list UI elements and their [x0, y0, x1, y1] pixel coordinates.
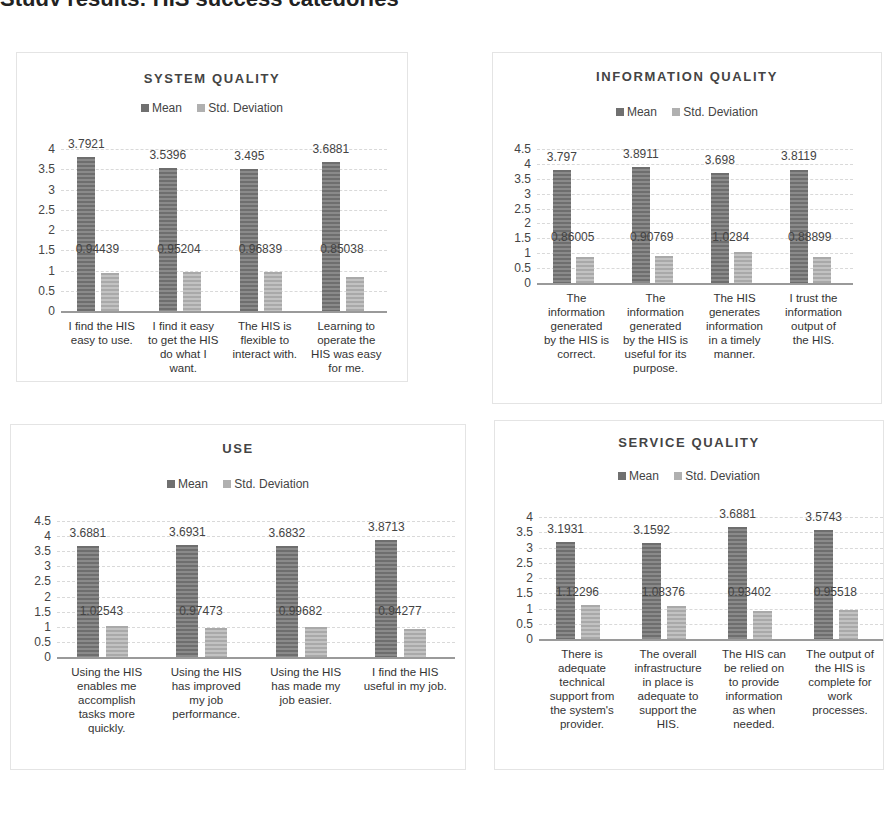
x-category-label-line: The output of: [795, 647, 885, 661]
x-category-label-line: I find the HIS: [354, 665, 458, 679]
y-tick-label: 1: [31, 264, 55, 278]
y-tick-label: 1.5: [509, 586, 533, 600]
legend-swatch-mean-icon: [141, 104, 149, 112]
gridline: [537, 164, 853, 165]
data-label-std-deviation: 0.93402: [728, 585, 771, 599]
y-tick-label: 0.5: [507, 261, 531, 275]
bar-std-deviation: [101, 273, 119, 311]
y-tick-label: 1: [507, 246, 531, 260]
x-category-label-line: job easier.: [254, 693, 358, 707]
x-category-label: I find it easyto get the HISdo what Iwan…: [141, 319, 227, 375]
legend-item-mean: Mean: [141, 101, 182, 115]
x-category-label: The HIS isflexible tointeract with.: [222, 319, 308, 361]
y-tick-label: 3.5: [27, 544, 51, 558]
x-category-label-line: The HIS: [693, 291, 776, 305]
x-category-label-line: has made my: [254, 679, 358, 693]
y-tick-label: 3.5: [509, 525, 533, 539]
y-tick-label: 2.5: [507, 202, 531, 216]
cutoff-heading: Study results: HIS success categories: [0, 0, 890, 6]
x-category-label-line: easy to use.: [59, 333, 145, 347]
x-category-label-line: support the: [623, 703, 713, 717]
x-category-label-line: technical: [537, 675, 627, 689]
x-category-label-line: the system's: [537, 703, 627, 717]
x-category-label-line: support from: [537, 689, 627, 703]
plot-area: 00.511.522.533.544.53.7970.860053.89110.…: [537, 149, 853, 283]
bar-std-deviation: [753, 611, 772, 639]
x-category-label-line: as when: [709, 703, 799, 717]
x-axis-line: [61, 311, 387, 313]
legend-item-sd: Std. Deviation: [197, 101, 283, 115]
x-category-label: I find the HISeasy to use.: [59, 319, 145, 347]
legend-label: Std. Deviation: [683, 105, 758, 119]
x-category-label-line: in place is: [623, 675, 713, 689]
x-axis-line: [539, 639, 883, 641]
y-tick-label: 2.5: [31, 203, 55, 217]
x-category-label-line: provider.: [537, 717, 627, 731]
legend-swatch-mean-icon: [618, 472, 626, 480]
legend-item-mean: Mean: [167, 477, 208, 491]
data-label-std-deviation: 0.99682: [279, 604, 322, 618]
data-label-std-deviation: 0.95518: [814, 585, 857, 599]
x-category-label: Theinformationgeneratedby the HIS isusef…: [614, 291, 697, 375]
y-tick-label: 0.5: [509, 617, 533, 631]
chart-legend: Mean Std. Deviation: [11, 477, 465, 491]
legend-item-sd: Std. Deviation: [672, 105, 758, 119]
x-category-label-line: processes.: [795, 703, 885, 717]
x-category-label-line: by the HIS is: [614, 333, 697, 347]
data-label-mean: 3.6881: [719, 507, 756, 521]
x-category-label-line: Using the HIS: [55, 665, 159, 679]
legend-swatch-mean-icon: [167, 480, 175, 488]
y-tick-label: 2: [509, 571, 533, 585]
x-category-label: I find the HISuseful in my job.: [354, 665, 458, 693]
y-tick-label: 0: [507, 276, 531, 290]
legend-label: Mean: [627, 105, 657, 119]
chart-title: SYSTEM QUALITY: [17, 71, 407, 86]
x-category-label-line: in a timely: [693, 333, 776, 347]
bar-std-deviation: [655, 256, 673, 283]
bar-mean: [711, 173, 729, 283]
bar-mean: [632, 167, 650, 283]
y-tick-label: 0: [509, 632, 533, 646]
data-label-std-deviation: 0.94439: [76, 242, 119, 256]
y-tick-label: 2.5: [509, 556, 533, 570]
chart-legend: Mean Std. Deviation: [495, 469, 883, 483]
x-category-label: Using the HIShas improvedmy jobperforman…: [155, 665, 259, 721]
legend-label: Std. Deviation: [208, 101, 283, 115]
x-category-label-line: I find the HIS: [59, 319, 145, 333]
legend-label: Std. Deviation: [234, 477, 309, 491]
legend-swatch-sd-icon: [672, 108, 680, 116]
x-category-label-line: interact with.: [222, 347, 308, 361]
chart-information-quality: INFORMATION QUALITY Mean Std. Deviation …: [492, 52, 882, 404]
x-category-label-line: Learning to: [304, 319, 390, 333]
bar-std-deviation: [667, 606, 686, 639]
data-label-mean: 3.8713: [368, 520, 405, 534]
x-category-label: There isadequatetechnicalsupport fromthe…: [537, 647, 627, 731]
x-axis-line: [57, 657, 455, 659]
x-category-label-line: needed.: [709, 717, 799, 731]
data-label-mean: 3.797: [547, 150, 577, 164]
data-label-std-deviation: 0.96839: [239, 242, 282, 256]
x-category-label: I trust theinformationoutput ofthe HIS.: [772, 291, 855, 347]
x-category-label-line: manner.: [693, 347, 776, 361]
y-tick-label: 3: [27, 559, 51, 573]
legend-label: Mean: [629, 469, 659, 483]
y-tick-label: 0.5: [27, 635, 51, 649]
bar-std-deviation: [404, 629, 426, 657]
x-category-label-line: The overall: [623, 647, 713, 661]
x-category-label: The HIS canbe relied onto provideinforma…: [709, 647, 799, 731]
x-category-label-line: the HIS.: [772, 333, 855, 347]
bar-mean: [159, 168, 177, 311]
x-category-label-line: output of: [772, 319, 855, 333]
legend-swatch-sd-icon: [223, 480, 231, 488]
x-category-label-line: adequate: [537, 661, 627, 675]
x-category-label-line: infrastructure: [623, 661, 713, 675]
x-category-label-line: HIS was easy: [304, 347, 390, 361]
bar-mean: [77, 157, 95, 311]
y-tick-label: 3.5: [31, 162, 55, 176]
x-category-label-line: has improved: [155, 679, 259, 693]
y-tick-label: 0: [31, 304, 55, 318]
x-category-label-line: useful in my job.: [354, 679, 458, 693]
bar-mean: [276, 546, 298, 657]
bar-std-deviation: [106, 626, 128, 657]
bar-mean: [553, 170, 571, 283]
